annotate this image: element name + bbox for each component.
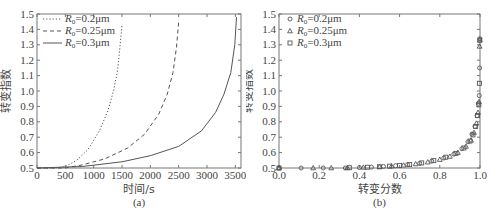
x-tick-label: 0.8 — [433, 169, 447, 181]
x-tick-label: 1000 — [83, 169, 106, 181]
y-tick-label: 1.2 — [262, 54, 276, 66]
x-tick-label: 0.2 — [312, 169, 326, 181]
y-tick-label: 0.9 — [20, 100, 34, 112]
y-tick-label: 0.6 — [262, 146, 276, 158]
data-point-triangle — [413, 161, 418, 165]
y-tick-label: 1.4 — [20, 23, 34, 35]
chart-panel-a: 0.50.60.70.80.91.01.11.21.31.41.50500100… — [0, 0, 246, 210]
data-point-triangle — [425, 160, 430, 164]
x-tick-label: 1.0 — [473, 169, 487, 181]
y-tick-label: 0.7 — [20, 131, 34, 143]
data-point-circle — [477, 94, 481, 98]
square-legend-icon — [288, 41, 292, 45]
x-tick-label: 2500 — [168, 169, 191, 181]
y-tick-label: 1.0 — [20, 85, 34, 97]
y-tick-label: 1.5 — [20, 8, 34, 20]
x-tick-label: 2000 — [139, 169, 162, 181]
y-tick-label: 1.3 — [20, 38, 34, 50]
y-tick-label: 0.6 — [20, 146, 34, 158]
panel-label: (b) — [373, 196, 386, 209]
y-tick-label: 0.8 — [262, 115, 276, 127]
x-tick-label: 0.0 — [272, 169, 286, 181]
x-axis-label: 时间/s — [123, 183, 155, 196]
circle-legend-icon — [288, 17, 292, 21]
x-tick-label: 1500 — [111, 169, 134, 181]
x-tick-label: 3500 — [224, 169, 246, 181]
triangle-legend-icon — [288, 29, 293, 33]
scatter-chart-b: 0.50.60.70.80.91.01.11.21.31.41.50.00.20… — [246, 0, 492, 210]
data-point-triangle — [469, 138, 474, 142]
chart-panel-b: 0.50.60.70.80.91.01.11.21.31.41.50.00.20… — [246, 0, 492, 210]
y-tick-label: 1.0 — [262, 85, 276, 97]
legend-label: R0=0.3μm — [296, 36, 342, 50]
y-tick-label: 1.2 — [20, 54, 34, 66]
x-axis-label: 转变分数 — [358, 182, 402, 196]
y-tick-label: 1.3 — [262, 38, 276, 50]
y-axis-label: 转变指数 — [246, 69, 255, 113]
x-tick-label: 0.6 — [393, 169, 407, 181]
x-tick-label: 500 — [57, 169, 74, 181]
y-tick-label: 0.5 — [20, 162, 34, 174]
y-tick-label: 1.5 — [262, 8, 276, 20]
x-tick-label: 0.4 — [353, 169, 367, 181]
legend-label: R0=0.3μm — [64, 36, 110, 50]
x-tick-label: 0 — [34, 169, 40, 181]
data-point-circle — [394, 164, 398, 168]
y-tick-label: 0.9 — [262, 100, 276, 112]
data-point-square — [477, 81, 481, 85]
y-tick-label: 0.8 — [20, 115, 34, 127]
y-tick-label: 1.4 — [262, 23, 276, 35]
y-tick-label: 1.1 — [20, 69, 34, 81]
y-axis-label: 转变指数 — [0, 69, 13, 113]
line-chart-a: 0.50.60.70.80.91.01.11.21.31.41.50500100… — [0, 0, 246, 210]
panel-label: (a) — [133, 196, 146, 209]
x-tick-label: 3000 — [196, 169, 219, 181]
y-tick-label: 0.7 — [262, 131, 276, 143]
y-tick-label: 1.1 — [262, 69, 276, 81]
